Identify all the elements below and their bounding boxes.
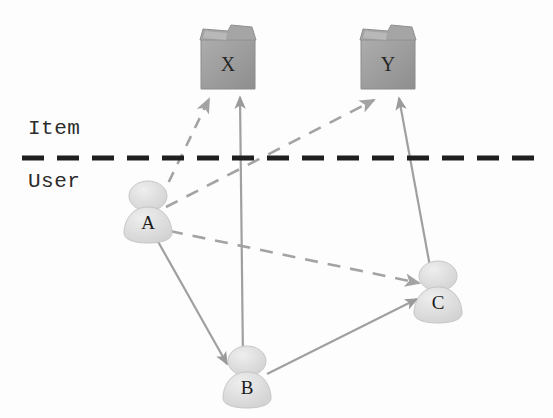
- item-label-y: Y: [381, 53, 395, 75]
- edge-a-to-c: [170, 231, 419, 283]
- edge-a-to-b: [156, 238, 227, 364]
- user-layer-label: User: [28, 170, 80, 193]
- user-node-a[interactable]: A: [124, 181, 172, 243]
- item-node-y[interactable]: Y: [360, 25, 416, 89]
- user-label-a: A: [141, 212, 155, 233]
- edge-c-to-y: [399, 98, 431, 272]
- user-node-b[interactable]: B: [223, 346, 271, 408]
- item-node-x[interactable]: X: [200, 25, 256, 89]
- item-label-x: X: [221, 53, 236, 75]
- edge-a-to-y: [166, 100, 374, 207]
- user-label-b: B: [241, 377, 254, 398]
- diagram-svg: X Y A B C: [0, 0, 553, 418]
- edges-group: [156, 97, 431, 374]
- item-layer-label: Item: [28, 117, 80, 140]
- edge-b-to-c: [267, 299, 417, 374]
- user-label-c: C: [432, 292, 445, 313]
- edge-b-to-x: [240, 97, 243, 360]
- diagram-canvas: X Y A B C Item User: [0, 0, 553, 418]
- user-node-c[interactable]: C: [414, 261, 462, 323]
- edge-a-to-x: [160, 99, 209, 200]
